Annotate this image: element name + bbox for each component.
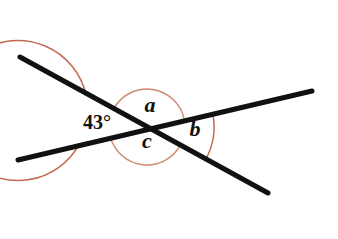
geometry-canvas: 43° a c b xyxy=(0,0,338,239)
angle-label-c: c xyxy=(142,128,152,153)
figure-background xyxy=(0,0,338,239)
angle-diagram-figure: 43° a c b xyxy=(0,0,338,239)
angle-label-43: 43° xyxy=(83,111,111,133)
angle-label-a: a xyxy=(145,92,156,117)
angle-label-b: b xyxy=(190,116,201,141)
